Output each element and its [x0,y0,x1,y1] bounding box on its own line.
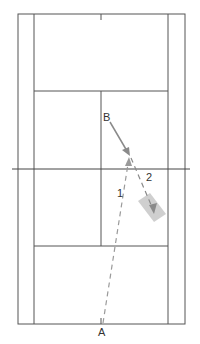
arrowhead-b [122,147,130,156]
path-b-arrow [110,122,130,156]
court-lines [12,14,190,324]
tennis-court-diagram [0,0,200,344]
label-path-1: 1 [117,188,123,199]
label-point-b: B [103,112,110,123]
label-path-2: 2 [146,172,152,183]
label-point-a: A [98,327,105,338]
path-1-shot [103,157,132,323]
